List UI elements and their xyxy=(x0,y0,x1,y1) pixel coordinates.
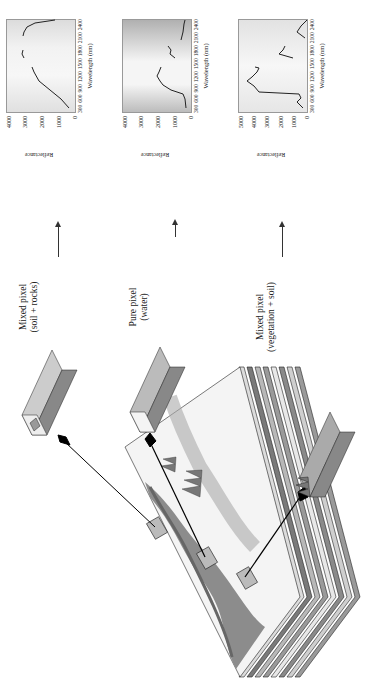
label-soil-rocks: Mixed pixel (soil + rocks) xyxy=(18,267,40,347)
label-water: Pure pixel (water) xyxy=(128,267,150,347)
x-axis-label: Wavelength (nm) xyxy=(318,19,325,113)
spectrum-line xyxy=(239,18,309,112)
arrow-head-icon xyxy=(172,219,178,225)
hyperspectral-pixel-diagram: Mixed pixel (soil + rocks) Pure pixel (w… xyxy=(0,0,380,697)
plot-area xyxy=(238,19,308,113)
spectrum-chart-vegetation-soil: Reflectance 5000 4000 3000 2000 1000 0 3… xyxy=(238,19,320,137)
spectrum-line xyxy=(7,18,77,112)
x-ticks: 30060090012001500180021002400 xyxy=(309,19,315,113)
pixel-cube-soil-rocks xyxy=(22,345,82,435)
label-vegetation-soil: Mixed pixel (vegetation + soil) xyxy=(255,267,277,367)
arrow-head-icon xyxy=(55,221,61,227)
spectrum-chart-water: Reflectance 4000 3000 2000 1000 0 300600… xyxy=(122,19,204,137)
spectrum-chart-soil-rocks: Reflectance 4000 3000 2000 1000 0 300600… xyxy=(6,19,88,137)
pixel-cube-water xyxy=(130,342,190,432)
spectrum-line xyxy=(123,18,193,112)
pixel-cube-vegetation-soil xyxy=(300,407,360,497)
y-axis-label: Reflectance xyxy=(135,152,175,158)
plot-area xyxy=(122,19,192,113)
x-ticks: 30060090012001500180021002400 xyxy=(77,19,83,113)
arrow-to-soil-chart xyxy=(58,227,59,257)
x-axis-label: Wavelength (nm) xyxy=(202,19,209,113)
y-axis-label: Reflectance xyxy=(251,152,291,158)
arrow-to-veg-chart xyxy=(282,225,283,257)
y-axis-label: Reflectance xyxy=(19,152,59,158)
arrow-head-icon xyxy=(279,221,285,227)
arrow-to-water-chart xyxy=(175,223,176,237)
x-ticks: 30060090012001500180021002400 xyxy=(193,19,199,113)
plot-area xyxy=(6,19,76,113)
x-axis-label: Wavelength (nm) xyxy=(86,19,93,113)
